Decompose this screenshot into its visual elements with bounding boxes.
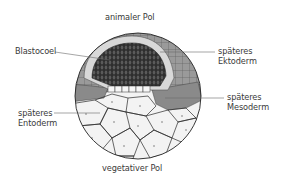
label-entoderm-line1: späteres: [18, 108, 57, 118]
label-animal-pole: animaler Pol: [105, 12, 154, 22]
label-entoderm-line2: Entoderm: [18, 118, 57, 128]
blastula-sphere: [70, 30, 210, 165]
label-vegetal-pole: vegetativer Pol: [102, 163, 162, 173]
label-entoderm: späteres Entoderm: [18, 108, 57, 128]
label-blastocoel: Blastocoel: [15, 46, 56, 56]
label-ectoderm-line2: Ektoderm: [218, 56, 257, 66]
label-ectoderm: späteres Ektoderm: [218, 46, 257, 66]
label-mesoderm-line2: Mesoderm: [227, 102, 269, 112]
label-mesoderm: späteres Mesoderm: [227, 92, 269, 112]
floor-cells: [108, 86, 150, 92]
label-ectoderm-line1: späteres: [218, 46, 257, 56]
label-mesoderm-line1: späteres: [227, 92, 269, 102]
blastula-diagram: [0, 0, 282, 177]
